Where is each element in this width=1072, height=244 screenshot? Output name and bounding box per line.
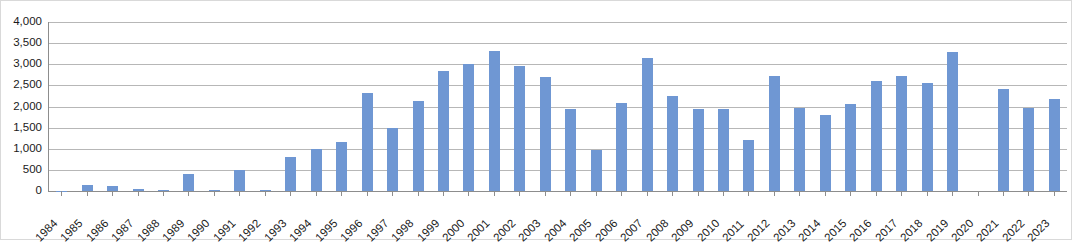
bar-slot [711,22,736,191]
bar[interactable] [362,93,373,191]
bar[interactable] [311,149,322,191]
tick-mark [392,191,393,196]
tick-mark [519,191,520,196]
bar[interactable] [998,89,1009,191]
tick-mark [265,191,266,196]
y-axis: 05001,0001,5002,0002,5003,0003,5004,000 [1,1,48,241]
bar[interactable] [591,150,602,191]
y-tick-label: 3,500 [13,37,42,49]
bar-slot [762,22,787,191]
bar-slot [660,22,685,191]
bar[interactable] [845,104,856,191]
bar-slot [253,22,278,191]
tick-mark [799,191,800,196]
tick-mark [188,191,189,196]
tick-mark [570,191,571,196]
bar[interactable] [743,140,754,191]
tick-mark [774,191,775,196]
bar[interactable] [616,103,627,191]
bar-slot [864,22,889,191]
bar-slot [787,22,812,191]
bar[interactable] [565,109,576,191]
plot-area [49,22,1067,191]
tick-mark [214,191,215,196]
bar[interactable] [489,51,500,191]
tick-mark [850,191,851,196]
bar-slot [991,22,1016,191]
tick-mark [163,191,164,196]
bar[interactable] [540,77,551,191]
bar[interactable] [183,174,194,191]
bar-slot [1042,22,1067,191]
bar[interactable] [769,76,780,191]
bar-slot [507,22,532,191]
tick-mark [443,191,444,196]
bar[interactable] [922,83,933,191]
y-tick-label: 3,000 [13,59,42,71]
bar-slot [176,22,201,191]
tick-mark [978,191,979,196]
tick-mark [1054,191,1055,196]
bar[interactable] [718,109,729,191]
bar[interactable] [871,81,882,191]
y-tick-label: 1,000 [13,143,42,155]
bar[interactable] [463,64,474,191]
tick-mark [290,191,291,196]
bar-slot [100,22,125,191]
bar[interactable] [947,52,958,191]
bar-slot [914,22,939,191]
bar[interactable] [234,170,245,191]
bar[interactable] [514,66,525,191]
y-tick-label: 500 [23,164,42,176]
tick-mark [61,191,62,196]
bar-slot [685,22,710,191]
tick-mark [952,191,953,196]
bar[interactable] [336,142,347,191]
bar[interactable] [667,96,678,191]
tick-mark [596,191,597,196]
tick-mark [1003,191,1004,196]
tick-mark [876,191,877,196]
bar[interactable] [438,71,449,191]
bar-slot [584,22,609,191]
bar-slot [329,22,354,191]
bar-slot [151,22,176,191]
bar[interactable] [1023,108,1034,191]
y-tick-label: 2,500 [13,80,42,92]
bar-slot [74,22,99,191]
tick-mark [138,191,139,196]
bar-slot [813,22,838,191]
bar-slot [380,22,405,191]
tick-mark [494,191,495,196]
y-tick-label: 2,000 [13,101,42,113]
tick-mark [367,191,368,196]
bar-slot [482,22,507,191]
bar[interactable] [1049,99,1060,191]
bar[interactable] [794,108,805,191]
bar-slot [456,22,481,191]
tick-mark [1028,191,1029,196]
y-tick-label: 1,500 [13,122,42,134]
bar-slot [965,22,990,191]
bar[interactable] [387,128,398,191]
bar-series [49,22,1067,191]
bar[interactable] [413,101,424,191]
bar[interactable] [896,76,907,191]
bar[interactable] [693,109,704,191]
bar-slot [736,22,761,191]
bar-slot [940,22,965,191]
bar-slot [431,22,456,191]
bar-slot [889,22,914,191]
tick-mark [698,191,699,196]
bar[interactable] [820,115,831,191]
bar-slot [304,22,329,191]
bar[interactable] [285,157,296,191]
bar-slot [558,22,583,191]
bar-slot [405,22,430,191]
bar-slot [49,22,74,191]
bar-slot [278,22,303,191]
tick-mark [112,191,113,196]
bar[interactable] [642,58,653,191]
y-tick-label: 4,000 [13,16,42,28]
